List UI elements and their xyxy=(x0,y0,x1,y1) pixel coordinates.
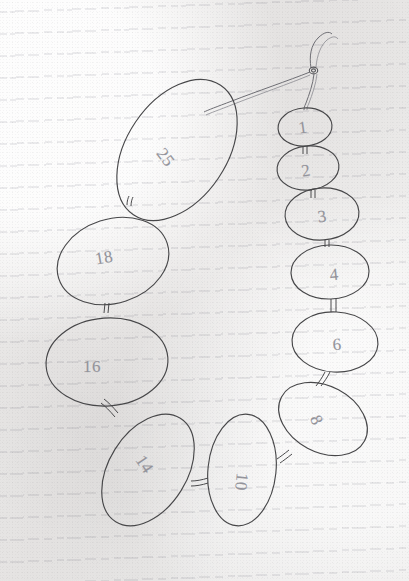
bead-1[interactable]: 1 xyxy=(277,106,334,148)
bead-14-label: 14 xyxy=(132,452,158,478)
connector-8-10 xyxy=(277,450,292,463)
connector-14-16 xyxy=(101,399,118,417)
scanned-page: 1 2 3 4 6 8 xyxy=(0,0,409,581)
cord-knot xyxy=(309,67,317,74)
cord-tail-right xyxy=(316,37,338,67)
beads-group: 1 2 3 4 6 8 xyxy=(43,57,380,542)
cord-group xyxy=(204,32,338,115)
connector-2-3 xyxy=(311,190,315,198)
connector-18-25 xyxy=(127,196,133,206)
cord-tail-left xyxy=(310,32,332,68)
connector-3-4 xyxy=(325,240,329,247)
bead-3-label: 3 xyxy=(316,206,328,226)
bead-16[interactable]: 16 xyxy=(43,314,171,410)
bead-4-label: 4 xyxy=(329,265,340,285)
cord-strand-to-bead-25 xyxy=(204,72,310,112)
bead-2[interactable]: 2 xyxy=(275,143,341,193)
bead-6[interactable]: 6 xyxy=(290,310,379,374)
bead-loop-diagram: 1 2 3 4 6 8 xyxy=(0,0,409,581)
bead-25-label: 25 xyxy=(153,144,179,170)
connector-1-2 xyxy=(303,146,307,154)
bead-18-label: 18 xyxy=(94,247,115,269)
bead-16-label: 16 xyxy=(83,357,101,376)
bead-10[interactable]: 10 xyxy=(202,411,281,529)
bead-25[interactable]: 25 xyxy=(92,57,262,242)
cord-strand-to-bead-25-shadow xyxy=(206,75,310,115)
bead-6-label: 6 xyxy=(332,335,342,355)
bead-1-label: 1 xyxy=(297,117,309,137)
bead-4[interactable]: 4 xyxy=(290,244,370,301)
connector-10-14 xyxy=(191,478,208,486)
bead-3[interactable]: 3 xyxy=(283,185,360,242)
bead-8-label: 8 xyxy=(306,412,327,428)
connector-4-6 xyxy=(331,299,336,312)
bead-2-label: 2 xyxy=(300,160,312,180)
connectors-group xyxy=(101,146,336,486)
bead-14[interactable]: 14 xyxy=(83,398,214,543)
bead-10-label: 10 xyxy=(231,472,252,492)
cord-strand-to-bead-1-shadow xyxy=(307,74,317,110)
